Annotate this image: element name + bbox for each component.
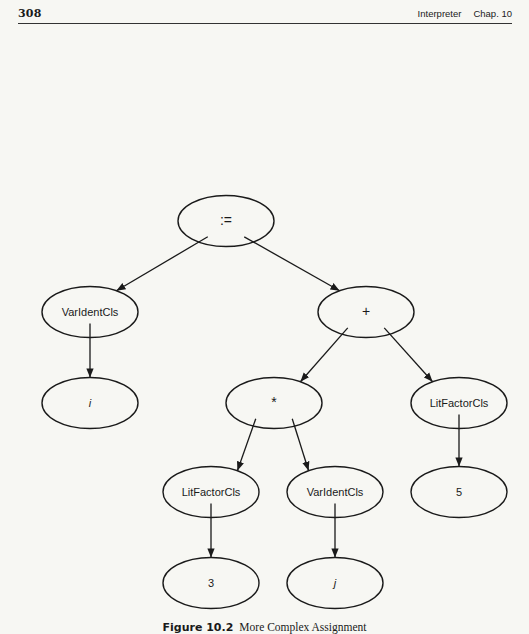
tree-node-leaf-3: 3	[163, 558, 259, 609]
node-label: LitFactorCls	[430, 397, 489, 409]
nodes-layer: :=VarIdentCls+i*LitFactorClsLitFactorCls…	[42, 196, 507, 609]
node-label: :=	[220, 212, 232, 228]
node-label: 5	[456, 486, 462, 498]
node-label: VarIdentCls	[62, 306, 119, 318]
node-label: LitFactorCls	[182, 486, 241, 498]
tree-node-leaf-i: i	[42, 378, 138, 429]
figure-caption: Figure 10.2More Complex Assignment	[0, 621, 529, 634]
node-label: j	[332, 577, 337, 589]
node-label: +	[362, 303, 370, 319]
figure-title: More Complex Assignment	[239, 621, 366, 633]
tree-node-assign: :=	[178, 196, 274, 247]
edge-plus-to-litfactor-5	[384, 328, 432, 382]
tree-node-plus: +	[318, 287, 414, 338]
tree-node-leaf-j: j	[287, 558, 383, 609]
edge-assign-to-varident-i	[116, 237, 207, 291]
node-label: VarIdentCls	[307, 486, 364, 498]
node-label: i	[89, 397, 92, 409]
edge-assign-to-plus	[244, 237, 339, 291]
node-label: *	[271, 394, 277, 410]
tree-node-leaf-5: 5	[411, 467, 507, 518]
edge-plus-to-times	[300, 328, 347, 382]
tree-node-times: *	[226, 378, 322, 429]
figure-number: Figure 10.2	[163, 621, 234, 634]
node-label: 3	[208, 577, 214, 589]
